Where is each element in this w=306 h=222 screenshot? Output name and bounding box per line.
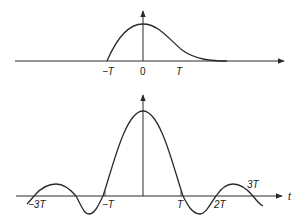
bottom-label-pos-3T: 3T — [247, 179, 260, 190]
bottom-label-neg-T: −T — [102, 199, 115, 210]
diagram-canvas: −T 0 T −3T −T T 2T 3T t — [0, 0, 306, 222]
bottom-label-pos-T: T — [177, 199, 184, 210]
bottom-plot: −3T −T T 2T 3T t — [16, 95, 292, 214]
top-pulse-curve — [107, 24, 227, 61]
top-plot: −T 0 T — [15, 11, 284, 77]
bottom-label-pos-2T: 2T — [213, 199, 227, 210]
top-label-neg-T: −T — [102, 66, 115, 77]
top-label-zero: 0 — [140, 66, 146, 77]
bottom-axis-label-t: t — [288, 191, 292, 202]
bottom-label-neg-3T: −3T — [28, 199, 46, 210]
top-label-pos-T: T — [176, 66, 183, 77]
bottom-sinc-curve — [27, 111, 263, 214]
